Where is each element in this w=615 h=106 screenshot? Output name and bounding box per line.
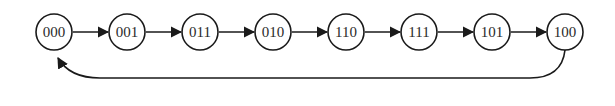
state-node-001: 001 (109, 14, 145, 50)
gray-code-state-diagram: 000 001 011 010 110 111 101 100 (0, 0, 615, 106)
state-node-000: 000 (36, 14, 72, 50)
state-label: 000 (43, 24, 66, 40)
state-label: 001 (116, 24, 139, 40)
state-node-011: 011 (182, 14, 218, 50)
state-node-111: 111 (401, 14, 437, 50)
state-node-101: 101 (474, 14, 510, 50)
state-node-100: 100 (547, 14, 583, 50)
state-node-110: 110 (328, 14, 364, 50)
state-label: 100 (554, 24, 577, 40)
state-label: 010 (262, 24, 285, 40)
edge-100-000-return (58, 50, 565, 78)
state-label: 110 (335, 24, 357, 40)
state-node-010: 010 (255, 14, 291, 50)
state-label: 011 (189, 24, 211, 40)
state-label: 111 (408, 24, 429, 40)
state-label: 101 (481, 24, 504, 40)
